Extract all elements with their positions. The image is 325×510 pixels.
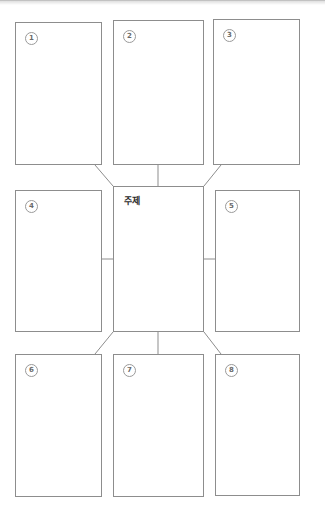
idea-number-badge: 2 [123,30,136,43]
idea-box-top-right[interactable]: 3 [213,19,300,165]
idea-number-badge: 1 [25,32,38,45]
idea-box-bottom-right[interactable]: 8 [215,354,300,496]
connector-bottom-right [204,332,221,354]
idea-box-middle-left[interactable]: 4 [15,190,102,332]
idea-box-middle-right[interactable]: 5 [215,190,300,332]
idea-box-top-left[interactable]: 1 [15,22,102,165]
idea-number-badge: 5 [225,200,238,213]
connector-top-right [204,165,221,186]
idea-number-badge: 6 [25,364,38,377]
idea-box-top-center[interactable]: 2 [113,20,204,165]
worksheet-page: 1 2 3 4 주제 5 6 7 8 [0,0,325,510]
idea-number-badge: 8 [225,364,238,377]
idea-box-bottom-left[interactable]: 6 [15,354,102,497]
connector-bottom-left [95,332,113,354]
idea-number-badge: 4 [25,200,38,213]
idea-number-badge: 3 [223,29,236,42]
center-topic-box[interactable]: 주제 [113,186,204,332]
connector-top-left [95,165,113,186]
idea-number-badge: 7 [123,364,136,377]
idea-box-bottom-center[interactable]: 7 [113,354,204,497]
center-topic-label: 주제 [124,195,140,207]
